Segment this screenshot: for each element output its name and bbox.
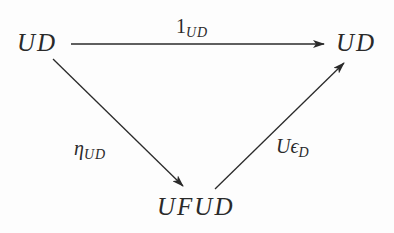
label-left-unit: ηUD	[74, 138, 106, 162]
arrow-right-counit	[215, 63, 344, 189]
label-top-sub: UD	[186, 25, 208, 40]
label-left-sub: UD	[84, 147, 106, 162]
label-right-counit: UϵD	[276, 136, 310, 160]
label-right-main: Uϵ	[276, 135, 299, 157]
node-top-left: UD	[17, 30, 57, 55]
label-left-main: η	[74, 137, 84, 159]
label-top-main: 1	[176, 15, 186, 37]
label-top-identity: 1UD	[176, 16, 208, 40]
arrow-left-unit	[53, 59, 183, 186]
node-bottom: UFUD	[157, 194, 234, 219]
commutative-diagram: UD UD UFUD 1UD ηUD UϵD	[0, 0, 394, 233]
node-top-right: UD	[336, 30, 376, 55]
label-right-sub: D	[299, 145, 310, 160]
